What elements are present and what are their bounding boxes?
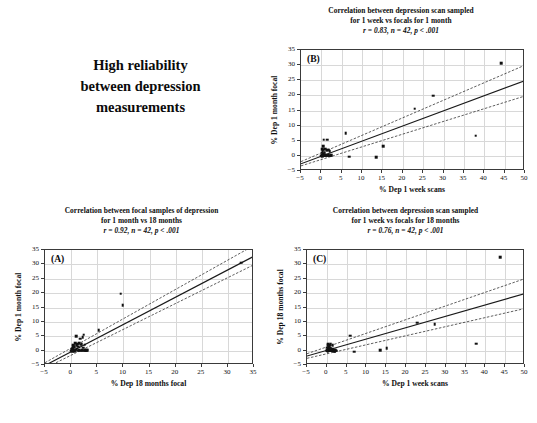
x-axis-tick <box>96 364 97 367</box>
x-axis-tick-label: 40 <box>480 174 487 182</box>
data-point <box>499 256 502 259</box>
gridline-vertical <box>342 50 343 169</box>
data-point <box>326 349 329 352</box>
x-axis-tick <box>381 170 382 173</box>
plot-area-c <box>306 249 524 364</box>
x-axis-tick <box>484 364 485 367</box>
data-point <box>327 149 330 152</box>
y-axis-tick-label: 10 <box>284 317 301 325</box>
data-point <box>78 349 81 352</box>
data-point <box>324 155 327 158</box>
y-axis-tick <box>41 364 44 365</box>
data-point <box>329 346 332 349</box>
data-point <box>329 155 332 158</box>
gridline-vertical <box>366 250 367 363</box>
gridline-horizontal <box>45 293 252 294</box>
stat-n: n = 42, <box>395 226 417 235</box>
x-axis-label: % Dep 1 week scans <box>379 185 445 194</box>
y-axis-tick-label: 10 <box>22 317 39 325</box>
data-point <box>322 145 325 148</box>
gridline-vertical <box>444 50 445 169</box>
stat-r: r = 0.76, <box>367 226 393 235</box>
gridline-vertical <box>403 50 404 169</box>
data-point <box>334 349 337 352</box>
stat-p: p < .001 <box>155 226 180 235</box>
data-point <box>84 349 87 352</box>
data-point <box>475 342 478 345</box>
data-point <box>70 349 73 352</box>
data-point <box>331 344 334 347</box>
y-axis-tick-label: 20 <box>278 90 295 98</box>
x-axis-tick-label: 0 <box>319 174 323 182</box>
data-point <box>334 348 337 351</box>
y-axis-label: % Dep 1 month focal <box>270 75 279 144</box>
x-axis-tick-label: 0 <box>68 368 72 376</box>
gridline-vertical <box>202 250 203 363</box>
y-axis-tick <box>303 263 306 264</box>
x-axis-tick <box>405 364 406 367</box>
x-axis-tick <box>253 364 254 367</box>
data-point <box>331 349 334 352</box>
confidence-band-upper <box>307 279 524 354</box>
data-point <box>86 349 89 352</box>
data-point <box>332 349 335 352</box>
x-axis-tick-label: 15 <box>145 368 152 376</box>
headline-line-2: between depression <box>18 76 263 97</box>
gridline-horizontal <box>307 351 523 352</box>
data-point <box>73 350 76 353</box>
data-point <box>98 329 101 332</box>
regression-lines <box>45 250 253 364</box>
data-point <box>81 349 84 352</box>
data-point <box>500 62 503 65</box>
data-point <box>328 345 331 348</box>
x-axis-tick-label: 25 <box>419 174 426 182</box>
x-axis-tick <box>175 364 176 367</box>
panel-letter-b: (B) <box>307 53 320 64</box>
data-point <box>432 94 435 97</box>
plot-area-b <box>300 49 524 170</box>
gridline-vertical <box>327 250 328 363</box>
data-point <box>328 344 331 347</box>
gridline-vertical <box>321 50 322 169</box>
gridline-vertical <box>466 250 467 363</box>
chart-title-line-2: for 1 month vs 18 months <box>14 216 269 226</box>
y-axis-tick <box>297 49 300 50</box>
y-axis-tick <box>41 263 44 264</box>
x-axis-tick-label: −5 <box>40 368 47 376</box>
chart-title-line-1: Correlation between depression scan samp… <box>278 206 533 216</box>
x-axis-tick-label: 50 <box>521 368 528 376</box>
data-point <box>328 155 331 158</box>
data-point <box>78 342 81 345</box>
data-point <box>72 349 75 352</box>
chart-title-line-1: Correlation between focal samples of dep… <box>14 206 269 216</box>
data-point <box>74 342 77 345</box>
x-axis-tick-label: 20 <box>398 174 405 182</box>
data-point <box>321 152 324 155</box>
gridline-horizontal <box>45 264 252 265</box>
y-axis-tick <box>303 278 306 279</box>
chart-stats-b: r = 0.83, n = 42, p < .001 <box>268 26 534 36</box>
gridline-vertical <box>71 250 72 363</box>
data-point <box>85 349 88 352</box>
gridline-horizontal <box>45 351 252 352</box>
y-axis-tick-label: −5 <box>22 360 39 368</box>
x-axis-tick-label: 5 <box>339 174 343 182</box>
x-axis-tick-label: 25 <box>197 368 204 376</box>
data-point <box>329 343 332 346</box>
y-axis-tick <box>303 350 306 351</box>
y-axis-tick <box>303 249 306 250</box>
data-point <box>321 150 324 153</box>
data-point <box>72 344 75 347</box>
data-point <box>323 155 326 158</box>
data-point <box>327 348 330 351</box>
data-point <box>326 149 329 152</box>
chart-title-c: Correlation between depression scan samp… <box>278 206 533 235</box>
data-point <box>321 155 324 158</box>
x-axis-tick <box>227 364 228 367</box>
x-axis-tick-label: 35 <box>250 368 257 376</box>
y-axis-tick <box>41 335 44 336</box>
gridline-vertical <box>505 50 506 169</box>
data-point <box>83 343 86 346</box>
data-point <box>324 154 327 157</box>
data-point <box>75 344 78 347</box>
